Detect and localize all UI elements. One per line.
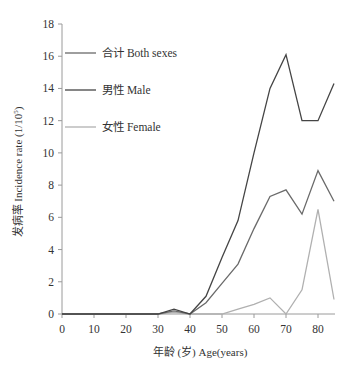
x-tick-label: 30 xyxy=(152,323,164,335)
axes: 02468101214161801020304050607080 xyxy=(43,18,336,335)
x-axis-title: 年龄 (岁) Age(years) xyxy=(153,345,248,359)
series-line-0 xyxy=(62,171,334,314)
legend-label: 合计 Both sexes xyxy=(102,46,178,59)
y-tick-label: 14 xyxy=(43,82,55,94)
y-tick-label: 16 xyxy=(43,50,55,62)
x-tick-label: 40 xyxy=(184,323,196,335)
y-tick-label: 0 xyxy=(48,308,54,320)
y-tick-label: 18 xyxy=(43,18,55,30)
y-tick-label: 4 xyxy=(48,244,54,256)
legend-label: 女性 Female xyxy=(102,120,161,133)
x-tick-label: 0 xyxy=(59,323,65,335)
y-tick-label: 6 xyxy=(48,211,54,223)
x-tick-label: 20 xyxy=(120,323,132,335)
incidence-line-chart: 02468101214161801020304050607080 合计 Both… xyxy=(0,0,352,377)
y-tick-label: 8 xyxy=(48,179,54,191)
legend-label: 男性 Male xyxy=(102,83,151,96)
series-line-2 xyxy=(62,209,334,314)
x-tick-label: 60 xyxy=(248,323,260,335)
x-tick-label: 10 xyxy=(88,323,100,335)
y-tick-label: 10 xyxy=(43,147,55,159)
legend: 合计 Both sexes男性 Male女性 Female xyxy=(65,46,178,133)
x-tick-label: 70 xyxy=(280,323,292,335)
y-tick-label: 12 xyxy=(43,115,55,127)
y-tick-label: 2 xyxy=(48,276,54,288)
x-tick-label: 50 xyxy=(216,323,228,335)
x-tick-label: 80 xyxy=(312,323,324,335)
y-axis-title: 发病率 Incidence rate (1/105) xyxy=(11,106,25,237)
